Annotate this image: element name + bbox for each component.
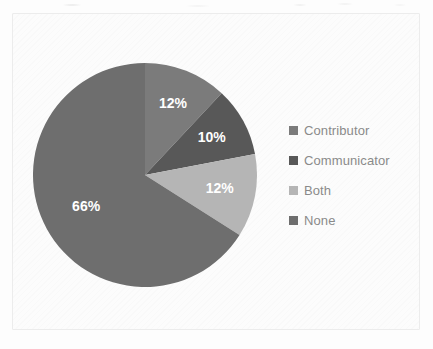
legend-label-both: Both (304, 183, 331, 198)
legend-item-both[interactable]: Both (289, 175, 417, 205)
chart-frame: 12%10%12%66% ContributorCommunicatorBoth… (12, 13, 420, 330)
legend-label-none: None (304, 213, 335, 228)
legend-swatch-communicator (289, 156, 298, 165)
legend-item-none[interactable]: None (289, 205, 417, 235)
pie-chart: 12%10%12%66% (31, 61, 259, 289)
legend-swatch-contributor (289, 126, 298, 135)
chart-legend: ContributorCommunicatorBothNone (289, 115, 417, 235)
legend-item-communicator[interactable]: Communicator (289, 145, 417, 175)
pie-data-label-contributor: 12% (159, 95, 188, 111)
pie-slice-group (33, 63, 257, 287)
pie-data-label-none: 66% (72, 198, 101, 214)
plot-area: 12%10%12%66% ContributorCommunicatorBoth… (13, 14, 421, 331)
legend-label-contributor: Contributor (304, 123, 369, 138)
pie-data-label-communicator: 10% (198, 129, 227, 145)
scan-noise-artifact (0, 0, 433, 12)
pie-data-label-both: 12% (206, 180, 235, 196)
legend-label-communicator: Communicator (304, 153, 390, 168)
legend-swatch-none (289, 216, 298, 225)
legend-swatch-both (289, 186, 298, 195)
legend-item-contributor[interactable]: Contributor (289, 115, 417, 145)
